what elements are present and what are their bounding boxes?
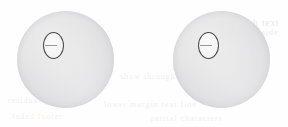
ghost-text-line: lower margin text line <box>104 100 197 109</box>
ghost-text-line: show through <box>120 72 176 81</box>
sphere-left: Left sphere <box>17 11 114 108</box>
ghost-text-line: partial characters <box>150 114 223 123</box>
marker-left-tick <box>45 45 57 46</box>
sphere-left-label: Left sphere <box>17 11 18 12</box>
ghost-text-line: faded footer <box>12 112 63 121</box>
figure-canvas: bleed through text faint reverse side sc… <box>0 0 288 127</box>
sphere-right: Right sphere <box>173 11 270 108</box>
marker-right-tick <box>200 45 212 46</box>
sphere-right-label: Right sphere <box>173 11 174 12</box>
